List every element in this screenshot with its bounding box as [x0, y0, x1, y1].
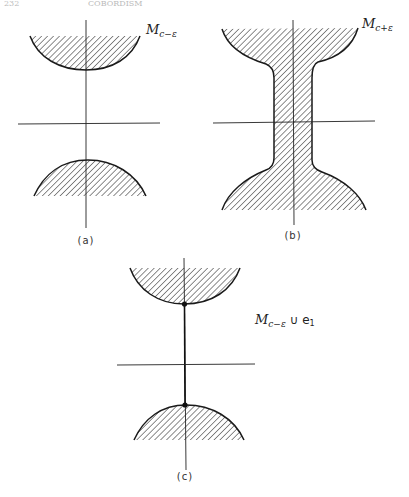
panel-c-attaching-point-top: [182, 301, 187, 306]
panel-a-label: Mc−ε: [145, 22, 177, 39]
panel-c: Mc−ε ∪ e1 (c): [117, 258, 315, 482]
panel-b: Mc+ε (b): [213, 16, 393, 241]
panel-b-label: Mc+ε: [361, 16, 393, 33]
running-title: COBORDISM: [88, 0, 143, 8]
panel-c-upper-region: [130, 268, 240, 304]
panel-c-lower-region: [134, 405, 244, 440]
panel-c-caption: (c): [177, 471, 193, 482]
page-number: 232: [4, 0, 19, 8]
panel-a: Mc−ε (a): [18, 20, 177, 246]
panel-c-attaching-point-bottom: [182, 402, 187, 407]
panel-c-one-cell-e1: [185, 304, 186, 405]
panel-c-horizontal-axis: [117, 364, 255, 365]
panel-a-upper-region: [30, 36, 140, 70]
morse-handle-figure: 232 COBORDISM Mc−ε (a) Mc+ε (b): [0, 0, 409, 497]
panel-c-label: Mc−ε ∪ e1: [254, 312, 315, 329]
panel-b-caption: (b): [284, 230, 301, 241]
panel-a-horizontal-axis: [18, 123, 160, 124]
panel-a-caption: (a): [78, 235, 95, 246]
panel-a-lower-region: [34, 160, 146, 196]
